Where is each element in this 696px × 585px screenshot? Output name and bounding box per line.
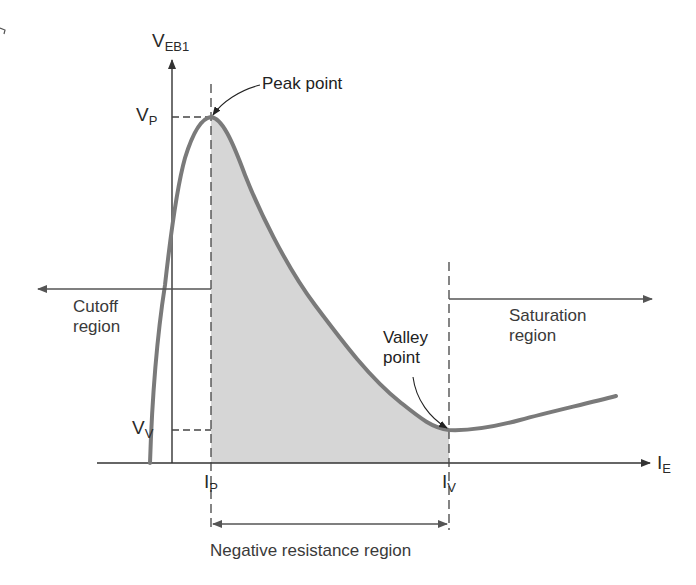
iv-label: IV (442, 471, 456, 495)
diagram-canvas (0, 0, 696, 585)
valley-line1: Valley (383, 328, 428, 348)
negative-resistance-label: Negative resistance region (210, 541, 411, 561)
peak-point-leader (213, 85, 260, 115)
saturation-line2: region (509, 326, 587, 346)
vp-symbol: V (136, 104, 149, 125)
x-axis-subscript: E (662, 461, 671, 476)
vp-label: VP (136, 104, 157, 128)
corner-artifact (0, 28, 5, 34)
iv-subscript: V (447, 480, 456, 495)
cutoff-line2: region (73, 317, 120, 337)
vv-label: VV (132, 417, 153, 441)
y-axis-symbol: V (152, 30, 165, 51)
saturation-region-label: Saturation region (509, 306, 587, 345)
x-axis-label: IE (657, 452, 671, 476)
valley-line2: point (383, 348, 428, 368)
ujt-characteristic-diagram: VEB1 IE VP VV IP IV Peak point Cutoff re… (0, 0, 696, 585)
vv-subscript: V (145, 426, 154, 441)
peak-point-label: Peak point (262, 74, 342, 94)
valley-point-label: Valley point (383, 328, 428, 367)
cutoff-region-label: Cutoff region (73, 297, 120, 336)
ip-subscript: P (209, 480, 218, 495)
y-axis-subscript: EB1 (165, 39, 190, 54)
y-axis-label: VEB1 (152, 30, 189, 54)
cutoff-line1: Cutoff (73, 297, 120, 317)
vp-subscript: P (149, 113, 158, 128)
saturation-line1: Saturation (509, 306, 587, 326)
ip-label: IP (204, 471, 218, 495)
vv-symbol: V (132, 417, 145, 438)
